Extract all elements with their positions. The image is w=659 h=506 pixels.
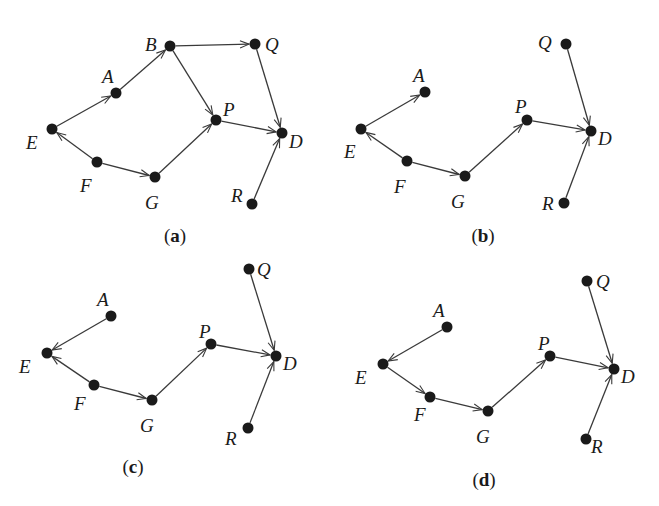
node-d-panel-a: [277, 128, 288, 139]
node-a-panel-d: [442, 322, 453, 333]
node-d-panel-d: [609, 364, 620, 375]
node-label-p: P: [514, 96, 527, 117]
node-label-a: A: [95, 289, 109, 310]
node-label-g: G: [140, 415, 154, 436]
node-a-panel-c: [106, 311, 117, 322]
node-f-panel-a: [92, 157, 103, 168]
edge-p-to-d: [555, 357, 608, 369]
node-q-panel-b: [561, 39, 572, 50]
node-label-d: D: [597, 128, 612, 149]
node-q-panel-a: [250, 39, 261, 50]
edge-q-to-d: [257, 49, 281, 127]
node-label-d: D: [288, 131, 303, 152]
edge-p-to-d: [221, 121, 276, 134]
node-label-r: R: [224, 428, 237, 449]
edge-g-to-p: [469, 124, 522, 172]
node-label-q: Q: [538, 32, 552, 53]
node-label-r: R: [590, 436, 603, 457]
node-label-e: E: [18, 356, 31, 377]
node-r-panel-a: [247, 199, 258, 210]
figure: ABQEPDFGRAQEPDFGRAQEPDFGRAQEPDFGR (a)(b)…: [0, 0, 659, 506]
arrowhead-icon: [52, 342, 62, 350]
node-a-panel-a: [111, 88, 122, 99]
node-label-b: B: [145, 34, 157, 55]
arrowhead-icon: [205, 105, 213, 115]
arrowhead-icon: [52, 356, 61, 364]
node-g-panel-d: [483, 406, 494, 417]
edge-f-to-g: [99, 386, 146, 399]
edge-e-to-a: [57, 96, 111, 126]
edge-r-to-d: [566, 137, 589, 198]
edge-b-to-p: [173, 51, 213, 115]
node-label-f: F: [73, 393, 86, 414]
edge-g-to-p: [492, 360, 545, 407]
edge-f-to-g: [102, 163, 149, 176]
node-label-p: P: [537, 333, 550, 354]
node-p-panel-a: [211, 115, 222, 126]
node-e-panel-c: [42, 348, 53, 359]
node-a-panel-b: [420, 87, 431, 98]
edge-q-to-d: [568, 49, 591, 125]
node-label-p: P: [198, 321, 211, 342]
node-e-panel-b: [356, 124, 367, 135]
edge-g-to-p: [159, 124, 212, 173]
node-d-panel-c: [271, 351, 282, 362]
edge-f-to-g: [435, 398, 482, 411]
node-label-e: E: [354, 367, 367, 388]
edge-r-to-d: [254, 139, 280, 199]
node-label-p: P: [222, 99, 235, 120]
captions-layer: (a)(b)(c)(d): [122, 225, 495, 491]
node-label-f: F: [413, 404, 426, 425]
node-r-panel-d: [581, 434, 592, 445]
node-label-r: R: [230, 185, 243, 206]
panel-caption-d: (d): [472, 469, 495, 491]
node-label-e: E: [25, 132, 38, 153]
node-g-panel-a: [150, 172, 161, 183]
panel-caption-b: (b): [471, 225, 494, 247]
edge-p-to-d: [532, 121, 585, 132]
panel-caption-a: (a): [164, 225, 186, 247]
directed-graph-panels: ABQEPDFGRAQEPDFGRAQEPDFGRAQEPDFGR (a)(b)…: [0, 0, 659, 506]
node-label-e: E: [343, 141, 356, 162]
node-label-a: A: [431, 300, 445, 321]
node-label-d: D: [282, 353, 297, 374]
nodes-layer: [42, 39, 620, 445]
node-r-panel-b: [559, 198, 570, 209]
node-b-panel-a: [165, 41, 176, 52]
edge-a-to-b: [120, 50, 165, 89]
edge-e-to-f: [388, 367, 426, 393]
node-label-q: Q: [265, 34, 279, 55]
node-f-panel-c: [89, 380, 100, 391]
node-e-panel-d: [378, 359, 389, 370]
node-e-panel-a: [47, 124, 58, 135]
edge-f-to-e: [366, 132, 403, 157]
node-label-f: F: [393, 176, 406, 197]
node-f-panel-d: [425, 392, 436, 403]
node-r-panel-c: [243, 423, 254, 434]
edge-f-to-g: [412, 162, 459, 175]
node-label-a: A: [411, 65, 425, 86]
edge-a-to-e: [388, 330, 442, 361]
node-label-a: A: [100, 66, 114, 87]
edge-f-to-e: [57, 133, 93, 159]
node-label-g: G: [476, 426, 490, 447]
node-label-f: F: [79, 175, 92, 196]
node-label-q: Q: [596, 271, 610, 292]
arrowhead-icon: [101, 96, 111, 104]
node-label-q: Q: [257, 259, 271, 280]
arrowhead-icon: [388, 353, 398, 361]
edge-q-to-d: [589, 286, 613, 363]
node-d-panel-b: [586, 126, 597, 137]
edges-layer: [52, 41, 613, 434]
edge-e-to-a: [366, 95, 420, 126]
node-q-panel-c: [244, 264, 255, 275]
edge-b-to-q: [175, 41, 249, 48]
panel-caption-c: (c): [122, 456, 143, 478]
node-label-g: G: [145, 192, 159, 213]
edge-r-to-d: [250, 362, 274, 423]
node-f-panel-b: [402, 156, 413, 167]
node-label-d: D: [620, 366, 635, 387]
edge-a-to-e: [52, 319, 106, 350]
node-g-panel-b: [460, 171, 471, 182]
arrowhead-icon: [410, 95, 420, 103]
